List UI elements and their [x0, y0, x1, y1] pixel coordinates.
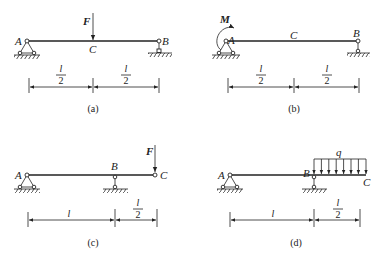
force-label: F	[82, 15, 91, 27]
panel-d: q A B C l l 2 (d)	[217, 146, 371, 249]
dimension-line	[230, 209, 360, 227]
dim-denominator: 2	[124, 75, 129, 86]
point-b-label: B	[162, 35, 169, 47]
point-b-label: B	[303, 167, 310, 179]
beam-diagrams: F A B C l 2 l 2 (a)	[0, 0, 388, 266]
dim-numerator: l	[337, 197, 340, 208]
panel-caption: (d)	[290, 237, 302, 249]
distributed-load-label: q	[336, 146, 342, 158]
dim-numerator: l	[137, 197, 140, 208]
point-a-label: A	[14, 35, 22, 47]
point-a-label: A	[217, 169, 225, 181]
point-a-label: A	[227, 34, 235, 46]
dim-denominator: 2	[259, 75, 264, 86]
dim-denominator: 2	[336, 209, 341, 220]
dim-denominator: 2	[136, 209, 141, 220]
pin-support-icon	[212, 39, 240, 59]
dim-denominator: 2	[325, 75, 330, 86]
moment-label: M	[219, 13, 231, 25]
panel-c: F A B C l l 2 (c)	[14, 145, 168, 249]
dim-numerator: l	[60, 63, 63, 74]
panel-caption: (a)	[87, 103, 98, 115]
point-c-label: C	[89, 43, 97, 55]
free-end-icon	[153, 173, 157, 177]
dim-label: l	[68, 208, 71, 219]
point-c-label: C	[290, 29, 298, 41]
dim-label: l	[272, 208, 275, 219]
force-label: F	[145, 145, 154, 157]
distributed-load-icon	[314, 159, 366, 174]
dim-numerator: l	[125, 63, 128, 74]
panel-caption: (b)	[288, 103, 300, 115]
point-c-label: C	[363, 176, 371, 188]
roller-support-icon	[103, 175, 128, 193]
point-b-label: B	[111, 160, 118, 172]
panel-caption: (c)	[87, 237, 98, 249]
point-a-label: A	[14, 169, 22, 181]
panel-b: M A B C l 2 l 2 (b)	[212, 13, 370, 115]
panel-a: F A B C l 2 l 2 (a)	[14, 13, 172, 115]
dim-denominator: 2	[59, 75, 64, 86]
dimension-line	[29, 78, 159, 93]
dim-numerator: l	[260, 63, 263, 74]
point-b-label: B	[353, 27, 360, 39]
dimension-line	[228, 78, 359, 93]
dim-numerator: l	[326, 63, 329, 74]
point-c-label: C	[160, 169, 168, 181]
